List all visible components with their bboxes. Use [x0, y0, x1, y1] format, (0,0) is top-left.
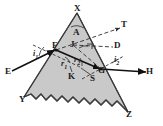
prism-refraction-figure: X A J D T F G K S E H Y Z i1 r1 r2 i2 — [0, 0, 163, 126]
label-point-j: J — [70, 40, 75, 49]
label-point-g: G — [98, 66, 105, 75]
label-point-y: Y — [19, 95, 26, 104]
label-point-x: X — [74, 4, 81, 13]
label-point-f: F — [52, 41, 58, 50]
angle-i1-sub: 1 — [35, 54, 38, 60]
label-angle-i1: i1 — [33, 50, 38, 60]
angle-i2-sub: 2 — [116, 60, 119, 66]
label-point-d: D — [114, 41, 121, 50]
label-point-z: Z — [126, 110, 132, 119]
label-point-k: K — [68, 72, 75, 81]
label-point-h: H — [146, 67, 153, 76]
label-angle-a: A — [73, 28, 80, 37]
label-point-s: S — [90, 74, 95, 83]
label-angle-r1: r1 — [61, 60, 67, 70]
label-angle-r2: r2 — [74, 56, 80, 66]
label-point-t: T — [121, 20, 127, 29]
angle-r2-sub: 2 — [77, 60, 80, 66]
label-point-e: E — [5, 67, 11, 76]
angle-r1-sub: 1 — [64, 64, 67, 70]
label-angle-i2: i2 — [114, 56, 119, 66]
figure-canvas — [0, 0, 163, 126]
